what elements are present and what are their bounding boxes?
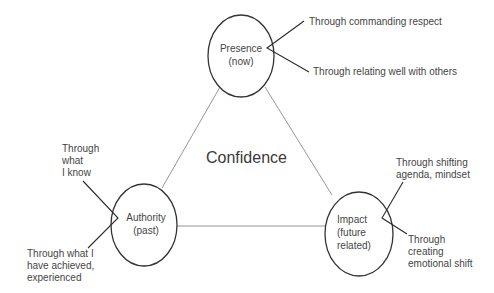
center-label: Confidence [206,149,287,167]
annotation-line: Through what I [27,248,94,260]
presence-annotation-respect: Through commanding respect [309,16,442,28]
impact-label-line2: (future [337,226,371,239]
annotation-line: have achieved, [27,260,94,272]
annotation-line: experienced [27,272,94,284]
annotation-line: emotional shift [408,258,472,270]
edge-presence-authority [162,87,220,188]
annotation-line: Through [62,143,99,155]
annotation-line: creating [408,246,472,258]
authority-label-line1: Authority [116,211,176,224]
presence-label-line1: Presence [211,42,271,55]
presence-annotation-relating: Through relating well with others [313,66,457,78]
annotation-line: agenda, mindset [396,169,470,181]
presence-label-line2: (now) [211,55,271,68]
annotation-line: Through [408,234,472,246]
annotation-line: Through relating well with others [313,66,457,78]
impact-annotation-emotional: Through creating emotional shift [408,234,472,270]
authority-annotation-achieved: Through what I have achieved, experience… [27,248,94,284]
annotation-line: what [62,155,99,167]
authority-annotation-know: Through what I know [62,143,99,179]
presence-label: Presence (now) [211,42,271,68]
impact-label-line1: Impact [337,213,371,226]
annotation-line: I know [62,167,99,179]
authority-label: Authority (past) [116,211,176,237]
authority-label-line2: (past) [116,224,176,237]
impact-label: Impact (future related) [337,213,371,252]
annotation-line: Through shifting [396,157,470,169]
edge-presence-impact [265,87,332,195]
annotation-line: Through commanding respect [309,16,442,28]
impact-annotation-agenda: Through shifting agenda, mindset [396,157,470,181]
impact-label-line3: related) [337,239,371,252]
confidence-diagram: Confidence Presence (now) Authority (pas… [0,0,494,293]
